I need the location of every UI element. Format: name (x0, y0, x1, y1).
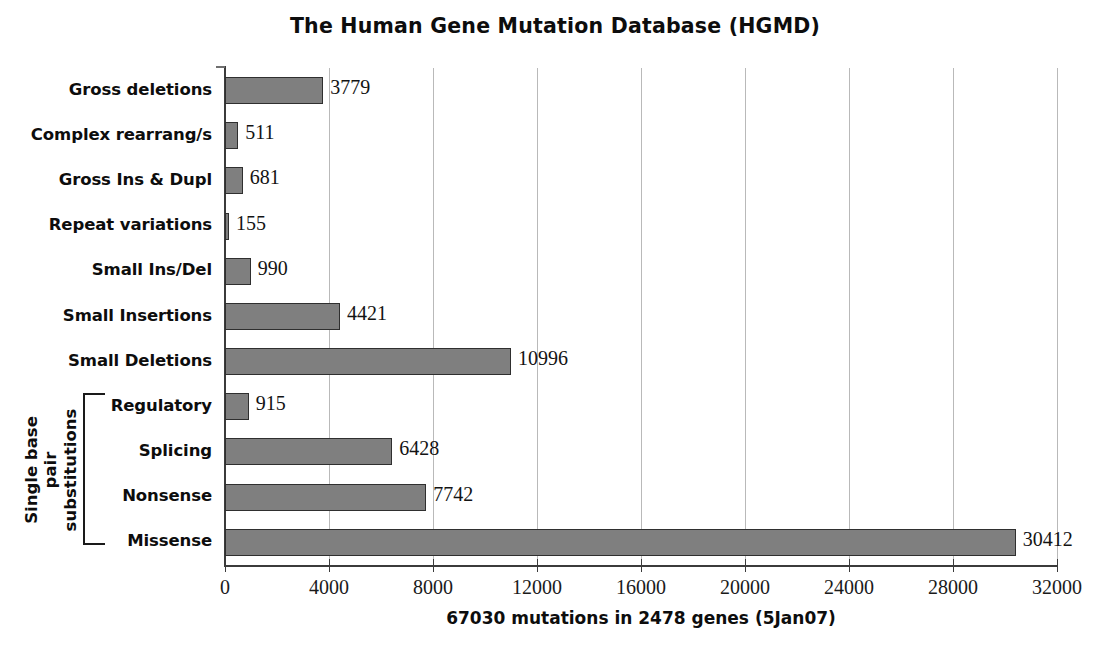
bar-value-label: 6428 (399, 437, 439, 460)
gridline (1057, 68, 1058, 565)
bar[interactable] (225, 77, 323, 104)
bar-row: 6428 (225, 429, 1057, 474)
category-label-small-deletions: Small Deletions (0, 351, 212, 370)
x-axis-tick-label: 0 (220, 576, 230, 599)
bar-value-label: 4421 (347, 302, 387, 325)
x-axis-tick-label: 28000 (928, 576, 978, 599)
category-label-complex-rearrang-s: Complex rearrang/s (0, 125, 212, 144)
bar-row: 511 (225, 113, 1057, 158)
bar[interactable] (225, 258, 251, 285)
bar-value-label: 681 (250, 166, 280, 189)
bar-value-label: 915 (256, 392, 286, 415)
bar[interactable] (225, 303, 340, 330)
bar[interactable] (225, 393, 249, 420)
bar-value-label: 990 (258, 257, 288, 280)
bar-row: 915 (225, 384, 1057, 429)
bar-value-label: 7742 (433, 483, 473, 506)
bar-value-label: 3779 (330, 76, 370, 99)
bar-row: 3779 (225, 68, 1057, 113)
bar-row: 155 (225, 204, 1057, 249)
bar-row: 4421 (225, 294, 1057, 339)
bar-row: 7742 (225, 475, 1057, 520)
page-title: The Human Gene Mutation Database (HGMD) (0, 14, 1110, 38)
category-label-small-insertions: Small Insertions (0, 306, 212, 325)
bar-row: 681 (225, 158, 1057, 203)
x-axis-tick-label: 8000 (413, 576, 453, 599)
x-axis-tick-label: 4000 (309, 576, 349, 599)
x-axis-title: 67030 mutations in 2478 genes (5Jan07) (225, 608, 1057, 628)
bar-row: 30412 (225, 520, 1057, 565)
bar[interactable] (225, 213, 229, 240)
bar-value-label: 511 (245, 121, 274, 144)
x-axis-tick (1057, 559, 1058, 572)
bar-row: 990 (225, 249, 1057, 294)
bar-value-label: 155 (236, 212, 266, 235)
category-label-repeat-variations: Repeat variations (0, 215, 212, 234)
bar[interactable] (225, 348, 511, 375)
bar[interactable] (225, 167, 243, 194)
bar[interactable] (225, 529, 1016, 556)
x-axis-tick-label: 16000 (616, 576, 666, 599)
bar[interactable] (225, 122, 238, 149)
x-axis-tick-label: 24000 (824, 576, 874, 599)
y-axis-cap-tick (216, 66, 225, 68)
bar-row: 10996 (225, 339, 1057, 384)
x-axis-tick-label: 32000 (1032, 576, 1082, 599)
category-label-gross-ins-dupl: Gross Ins & Dupl (0, 170, 212, 189)
x-axis-tick-label: 12000 (512, 576, 562, 599)
x-axis-tick-label: 20000 (720, 576, 770, 599)
category-label-gross-deletions: Gross deletions (0, 80, 212, 99)
group-label: Single base pair substitutions (0, 395, 126, 545)
bar-value-label: 30412 (1023, 528, 1073, 551)
bar-value-label: 10996 (518, 347, 568, 370)
category-label-small-ins-del: Small Ins/Del (0, 260, 212, 279)
bar[interactable] (225, 484, 426, 511)
group-label-text: Single base pair substitutions (22, 395, 80, 545)
bar[interactable] (225, 438, 392, 465)
